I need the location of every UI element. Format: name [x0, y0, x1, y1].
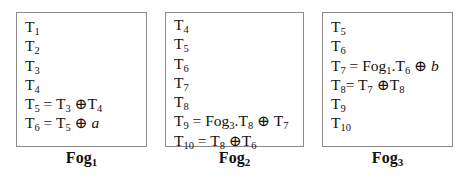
subscript: 7: [283, 120, 288, 131]
text: .T: [392, 57, 405, 74]
equation-line: T2: [25, 36, 146, 55]
equation-line: T7 = Fog1.T6 ⊕ b: [331, 56, 452, 75]
subscript: 10: [340, 122, 351, 133]
equation-line: T3: [25, 56, 146, 75]
equation-line: T5: [174, 34, 303, 53]
fog-2-panel: T4T5T6T7T8T9 = Fog3.T8 ⊕ T7T10 = T8 ⊕T6 …: [165, 12, 304, 167]
equation-line: T5: [331, 17, 452, 36]
equation-line: T8= T7 ⊕T8: [331, 75, 452, 94]
equation-line: T4: [174, 15, 303, 34]
fog-1-box: T1T2T3T4T5 = T3 ⊕T4T6 = T5 ⊕ a: [16, 12, 147, 147]
text: = T: [346, 76, 368, 93]
equation-line: T7: [174, 73, 303, 92]
text: = Fog: [189, 112, 230, 129]
text: ⊕: [71, 114, 92, 131]
fog-3-label: Fog3: [322, 149, 453, 167]
subscript: 5: [183, 43, 188, 54]
fog-3-box: T5T6T7 = Fog1.T6 ⊕ bT8= T7 ⊕T8T9T10: [322, 12, 453, 147]
fog-label-text: Fog: [66, 149, 92, 166]
text: = T: [194, 132, 220, 149]
equation-line: T10: [331, 113, 452, 132]
fog-label-subscript: 3: [398, 156, 404, 168]
subscript: 2: [34, 45, 39, 56]
fog-2-label: Fog2: [165, 149, 304, 167]
equation-line: T6: [174, 54, 303, 73]
equation-line: T6: [331, 36, 452, 55]
equation-line: T9 = Fog3.T8 ⊕ T7: [174, 111, 303, 130]
fog-label-text: Fog: [372, 149, 398, 166]
subscript: 8: [399, 84, 404, 95]
fog-2-box: T4T5T6T7T8T9 = Fog3.T8 ⊕ T7T10 = T8 ⊕T6: [165, 12, 304, 147]
equation-line: T9: [331, 94, 452, 113]
fog-1-label: Fog1: [16, 149, 147, 167]
text: = Fog: [346, 57, 387, 74]
text: ⊕T: [225, 132, 251, 149]
subscript: 6: [340, 45, 345, 56]
subscript: 6: [251, 140, 256, 151]
text: .T: [235, 112, 248, 129]
subscript: 10: [183, 140, 194, 151]
equation-line: T5 = T3 ⊕T4: [25, 94, 146, 113]
equation-line: T8: [174, 92, 303, 111]
text: = T: [40, 114, 66, 131]
fog-label-subscript: 2: [245, 156, 251, 168]
text: = T: [40, 95, 66, 112]
variable: a: [91, 114, 99, 131]
subscript: 3: [34, 65, 39, 76]
equation-line: T6 = T5 ⊕ a: [25, 113, 146, 132]
text: ⊕: [410, 57, 431, 74]
text: ⊕ T: [253, 112, 283, 129]
equation-line: T4: [25, 75, 146, 94]
fog-label-subscript: 1: [92, 156, 98, 168]
equation-line: T1: [25, 17, 146, 36]
fog-1-panel: T1T2T3T4T5 = T3 ⊕T4T6 = T5 ⊕ a Fog1: [16, 12, 147, 167]
fog-3-panel: T5T6T7 = Fog1.T6 ⊕ bT8= T7 ⊕T8T9T10 Fog3: [322, 12, 453, 167]
text: ⊕T: [71, 95, 97, 112]
subscript: 6: [183, 63, 188, 74]
fog-label-text: Fog: [219, 149, 245, 166]
text: ⊕T: [373, 76, 399, 93]
equation-line: T10 = T8 ⊕T6: [174, 131, 303, 150]
variable: b: [431, 57, 439, 74]
